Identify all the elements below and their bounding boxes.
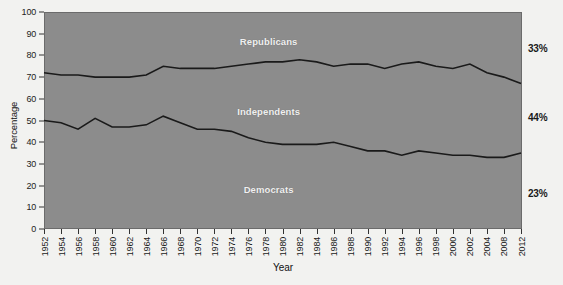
right-annotation-independents: 44% bbox=[528, 112, 547, 123]
x-tick-mark bbox=[180, 229, 181, 234]
y-tick-label: 70 bbox=[26, 72, 36, 82]
x-tick-mark bbox=[521, 229, 522, 234]
x-tick-mark bbox=[402, 229, 403, 234]
x-axis: 1952195419561958196019621964196619681970… bbox=[44, 229, 522, 285]
y-tick-label: 10 bbox=[26, 202, 36, 212]
x-tick-label: 2000 bbox=[448, 237, 458, 256]
x-tick-label: 1974 bbox=[227, 237, 237, 256]
y-tick-label: 100 bbox=[22, 7, 36, 17]
y-axis-title: Percentage bbox=[8, 91, 19, 161]
republicans-boundary-line bbox=[44, 60, 521, 84]
x-tick-mark bbox=[334, 229, 335, 234]
y-tick-label: 0 bbox=[31, 224, 36, 234]
x-tick-label: 1996 bbox=[414, 237, 424, 256]
y-tick-label: 40 bbox=[26, 137, 36, 147]
x-tick-label: 1952 bbox=[40, 237, 50, 256]
x-tick-label: 2004 bbox=[482, 237, 492, 256]
x-tick-mark bbox=[163, 229, 164, 234]
y-tick-label: 50 bbox=[26, 116, 36, 126]
x-tick-label: 1972 bbox=[210, 237, 220, 256]
x-tick-label: 1984 bbox=[312, 237, 322, 256]
y-tick-label: 90 bbox=[26, 29, 36, 39]
x-tick-label: 1960 bbox=[108, 237, 118, 256]
x-tick-label: 1982 bbox=[295, 237, 305, 256]
x-tick-label: 1990 bbox=[363, 237, 373, 256]
x-tick-label: 1988 bbox=[346, 237, 356, 256]
x-tick-mark bbox=[317, 229, 318, 234]
x-tick-mark bbox=[231, 229, 232, 234]
x-tick-label: 1956 bbox=[74, 237, 84, 256]
x-tick-label: 1992 bbox=[380, 237, 390, 256]
x-tick-mark bbox=[129, 229, 130, 234]
plot-area: Republicans Independents Democrats bbox=[44, 12, 522, 229]
x-tick-label: 1976 bbox=[244, 237, 254, 256]
x-tick-label: 1958 bbox=[91, 237, 101, 256]
x-tick-label: 1986 bbox=[329, 237, 339, 256]
x-tick-mark bbox=[95, 229, 96, 234]
x-tick-label: 2008 bbox=[499, 237, 509, 256]
x-tick-mark bbox=[487, 229, 488, 234]
chart-figure: Percentage 0102030405060708090100 Republ… bbox=[0, 0, 563, 285]
series-label-democrats: Democrats bbox=[244, 184, 294, 195]
x-tick-mark bbox=[470, 229, 471, 234]
x-tick-mark bbox=[248, 229, 249, 234]
x-tick-mark bbox=[112, 229, 113, 234]
x-tick-mark bbox=[504, 229, 505, 234]
x-tick-label: 1968 bbox=[176, 237, 186, 256]
x-tick-label: 1980 bbox=[278, 237, 288, 256]
x-tick-mark bbox=[436, 229, 437, 234]
x-tick-label: 2002 bbox=[465, 237, 475, 256]
x-tick-mark bbox=[146, 229, 147, 234]
democrats-boundary-line bbox=[44, 116, 521, 157]
series-label-republicans: Republicans bbox=[240, 36, 298, 47]
x-tick-mark bbox=[61, 229, 62, 234]
x-tick-label: 1966 bbox=[159, 237, 169, 256]
x-tick-mark bbox=[44, 229, 45, 234]
y-tick-label: 30 bbox=[26, 159, 36, 169]
x-tick-label: 1978 bbox=[261, 237, 271, 256]
x-tick-label: 1994 bbox=[397, 237, 407, 256]
x-tick-label: 1970 bbox=[193, 237, 203, 256]
x-tick-mark bbox=[265, 229, 266, 234]
x-axis-title: Year bbox=[44, 262, 522, 273]
x-tick-mark bbox=[385, 229, 386, 234]
y-axis: Percentage 0102030405060708090100 bbox=[0, 0, 44, 285]
right-annotation-democrats: 23% bbox=[528, 188, 547, 199]
right-annotation-republicans: 33% bbox=[528, 43, 547, 54]
x-tick-mark bbox=[351, 229, 352, 234]
x-tick-label: 1962 bbox=[125, 237, 135, 256]
x-tick-mark bbox=[197, 229, 198, 234]
x-tick-label: 2012 bbox=[517, 237, 527, 256]
y-tick-label: 20 bbox=[26, 181, 36, 191]
series-label-independents: Independents bbox=[237, 106, 300, 117]
y-tick-label: 60 bbox=[26, 94, 36, 104]
x-tick-mark bbox=[453, 229, 454, 234]
x-tick-mark bbox=[214, 229, 215, 234]
x-tick-label: 1964 bbox=[142, 237, 152, 256]
x-tick-mark bbox=[368, 229, 369, 234]
x-tick-label: 1998 bbox=[431, 237, 441, 256]
x-tick-mark bbox=[78, 229, 79, 234]
x-tick-label: 1954 bbox=[57, 237, 67, 256]
y-tick-label: 80 bbox=[26, 50, 36, 60]
x-tick-mark bbox=[419, 229, 420, 234]
x-tick-mark bbox=[300, 229, 301, 234]
x-tick-mark bbox=[283, 229, 284, 234]
